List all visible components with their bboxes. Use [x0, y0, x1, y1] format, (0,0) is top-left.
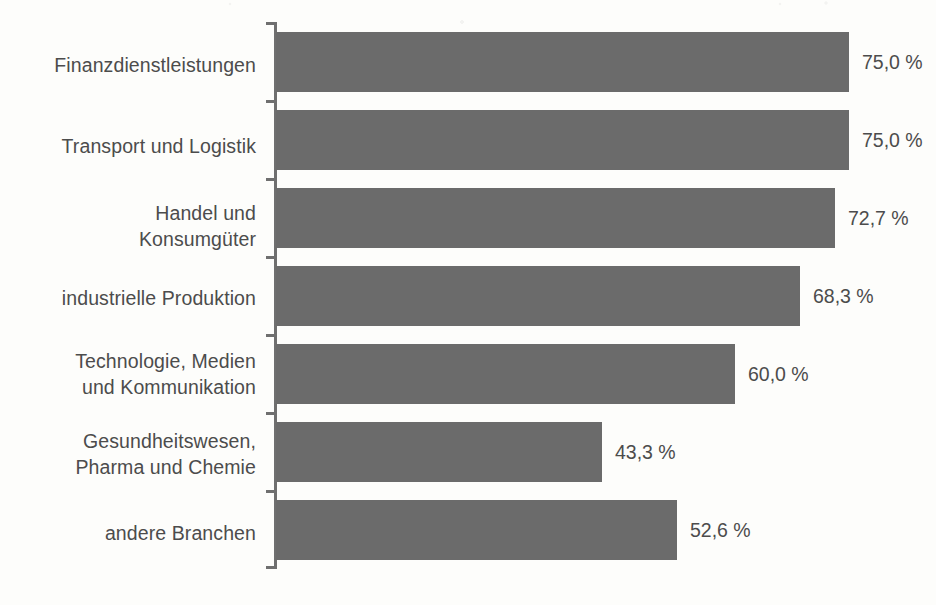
axis-tick [266, 178, 275, 181]
bar-value-label: 68,3 % [813, 286, 874, 306]
bar [276, 188, 835, 248]
bar-value-label: 60,0 % [748, 364, 809, 384]
bar-value-label: 75,0 % [862, 130, 923, 150]
category-label: industrielle Produktion [0, 285, 256, 311]
axis-tick [266, 412, 275, 415]
category-label: andere Branchen [0, 520, 256, 546]
category-label: Technologie, Medien und Kommunikation [0, 348, 256, 400]
axis-tick [266, 490, 275, 493]
bar [276, 266, 800, 326]
plot-area: 75,0 % 75,0 % 72,7 % 68,3 % 60,0 % 43,3 … [276, 0, 936, 605]
axis-tick [266, 256, 275, 259]
bar-value-label: 43,3 % [615, 442, 676, 462]
bar [276, 110, 849, 170]
category-label: Handel und Konsumgüter [0, 200, 256, 252]
axis-tick [266, 566, 275, 569]
horizontal-bar-chart: Finanzdienstleistungen Transport und Log… [0, 0, 936, 605]
bar [276, 422, 602, 482]
bar-value-label: 52,6 % [690, 520, 751, 540]
bar [276, 32, 849, 92]
bar [276, 344, 735, 404]
category-label: Finanzdienstleistungen [0, 52, 256, 78]
axis-tick [266, 100, 275, 103]
category-label: Transport und Logistik [0, 133, 256, 159]
bar-value-label: 72,7 % [848, 208, 909, 228]
bar [276, 500, 677, 560]
axis-tick [266, 22, 275, 25]
bar-value-label: 75,0 % [862, 52, 923, 72]
category-label-column: Finanzdienstleistungen Transport und Log… [0, 0, 256, 605]
axis-tick [266, 334, 275, 337]
category-label: Gesundheitswesen, Pharma und Chemie [0, 428, 256, 480]
